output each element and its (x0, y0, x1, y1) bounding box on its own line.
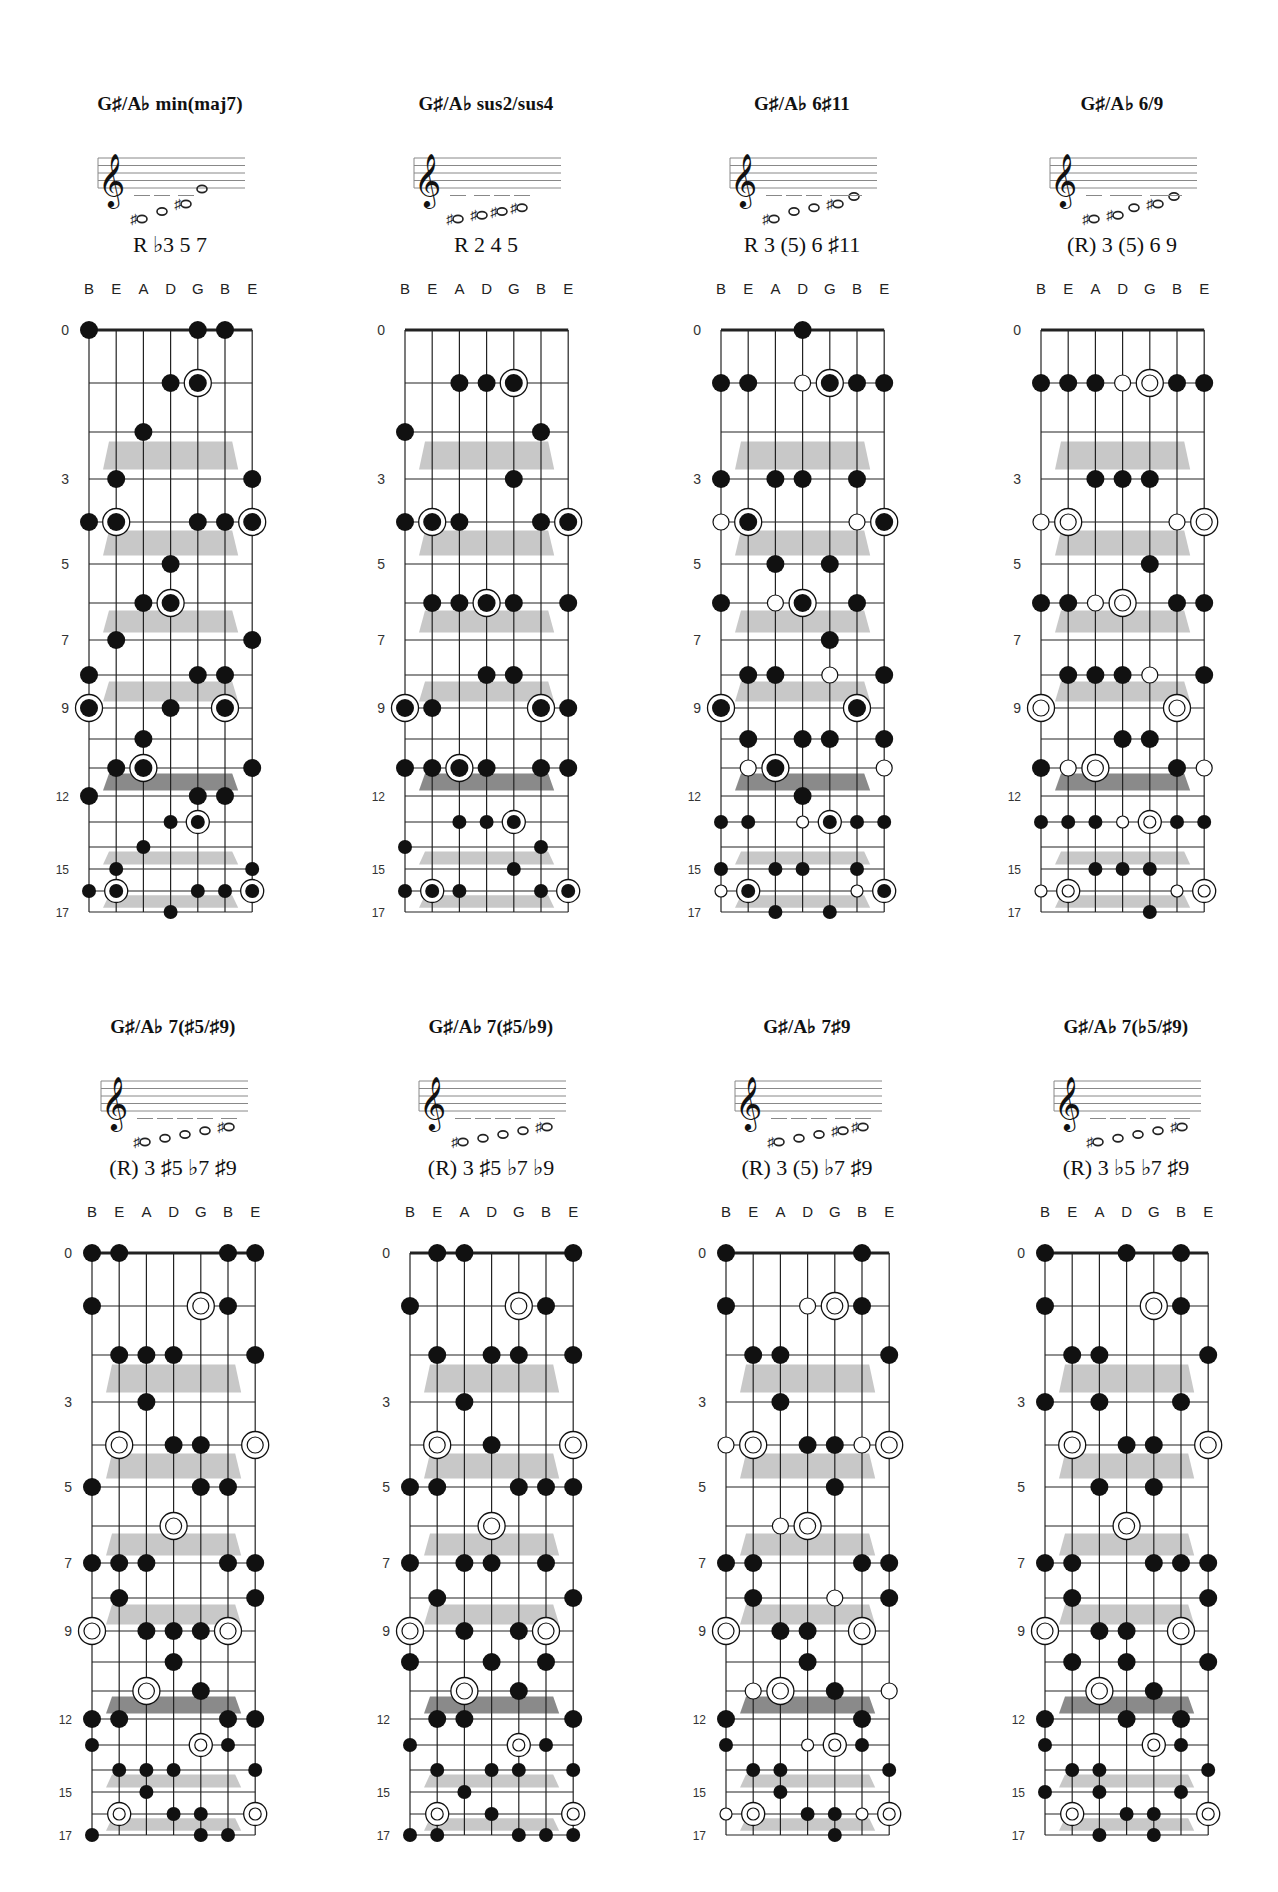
fret-number: 5 (693, 556, 701, 572)
chord-title: G♯/A♭ 6/9 (992, 92, 1252, 115)
note-dot (1063, 1589, 1081, 1607)
whole-note-icon (838, 1127, 848, 1134)
whole-note-icon (200, 1127, 210, 1134)
root-dot (561, 884, 575, 898)
note-dot (83, 1554, 101, 1572)
note-dot (134, 423, 152, 441)
note-dot (1092, 1828, 1106, 1842)
note-dot (1092, 1785, 1106, 1799)
note-dot (1118, 1244, 1136, 1262)
note-dot (219, 1478, 237, 1496)
note-dot (566, 1763, 580, 1777)
note-dot (1086, 666, 1104, 684)
chord-diagram: G♯/A♭ 7(♯5/♯9) 𝄞♯♯ (R) 3 ♯5 ♭7 ♯9 BEADGB… (43, 1013, 343, 1892)
note-dot (246, 1346, 264, 1364)
string-label: E (111, 280, 121, 297)
note-dot (243, 759, 261, 777)
note-dot (1032, 759, 1050, 777)
fret-number: 9 (698, 1623, 706, 1639)
staff-notation: 𝄞♯♯ (90, 122, 290, 232)
note-dot (450, 513, 468, 531)
fret-number: 7 (698, 1555, 706, 1571)
note-dot (1032, 594, 1050, 612)
note-dot (1168, 759, 1186, 777)
note-dot (165, 1653, 183, 1671)
note-dot (430, 1763, 444, 1777)
note-dot (826, 1682, 844, 1700)
string-label: G (508, 280, 520, 297)
note-dot (1059, 666, 1077, 684)
note-dot (107, 631, 125, 649)
string-label: E (250, 1203, 260, 1220)
string-label: D (797, 280, 808, 297)
fret-number: 5 (1013, 556, 1021, 572)
note-dot (110, 1710, 128, 1728)
string-label: D (168, 1203, 179, 1220)
note-dot (401, 1653, 419, 1671)
fret-number: 12 (688, 790, 702, 804)
note-dot (1141, 470, 1159, 488)
string-label: B (721, 1203, 731, 1220)
fret-number: 3 (61, 471, 69, 487)
note-dot (1143, 905, 1157, 919)
fret-number: 12 (1008, 790, 1022, 804)
note-dot (850, 862, 864, 876)
string-label: A (138, 280, 148, 297)
whole-note-icon (517, 204, 527, 211)
note-dot (216, 513, 234, 531)
note-dot (512, 1763, 526, 1777)
note-dot (401, 1478, 419, 1496)
chord-diagram: G♯/A♭ 6♯11 𝄞♯♯ R 3 (5) 6 ♯11 BEADGBE0357… (672, 90, 972, 990)
whole-note-icon (197, 185, 207, 192)
note-dot (848, 470, 866, 488)
note-dot (396, 423, 414, 441)
note-dot (243, 631, 261, 649)
whole-note-icon (137, 215, 147, 222)
string-label: E (1063, 280, 1073, 297)
note-dot (848, 374, 866, 392)
string-label: E (1067, 1203, 1077, 1220)
string-label: G (192, 280, 204, 297)
string-label: A (1090, 280, 1100, 297)
root-dot (794, 594, 812, 612)
note-dot (450, 594, 468, 612)
note-dot (398, 840, 412, 854)
chord-title: G♯/A♭ 6♯11 (672, 92, 932, 115)
root-dot (821, 374, 839, 392)
note-dot (221, 1738, 235, 1752)
note-dot (83, 1478, 101, 1496)
note-dot (821, 730, 839, 748)
string-label: D (802, 1203, 813, 1220)
staff-notation: 𝄞♯♯ (722, 122, 922, 232)
root-dot (532, 699, 550, 717)
note-dot (739, 730, 757, 748)
note-dot (110, 1244, 128, 1262)
string-label: E (743, 280, 753, 297)
fret-number: 17 (372, 906, 386, 920)
note-dot (455, 1393, 473, 1411)
optional-note-circle (1169, 514, 1185, 530)
note-dot (83, 1297, 101, 1315)
string-label: B (405, 1203, 415, 1220)
note-dot (739, 374, 757, 392)
note-dot (1086, 374, 1104, 392)
string-label: B (220, 280, 230, 297)
note-dot (455, 1622, 473, 1640)
note-dot (505, 666, 523, 684)
note-dot (1195, 666, 1213, 684)
treble-clef-icon: 𝄞 (419, 1077, 446, 1132)
treble-clef-icon: 𝄞 (98, 154, 125, 209)
note-dot (539, 1828, 553, 1842)
root-dot (766, 759, 784, 777)
note-dot (83, 1244, 101, 1262)
note-dot (483, 1436, 501, 1454)
chord-title: G♯/A♭ 7(♯5/♭9) (361, 1015, 621, 1038)
note-dot (1088, 862, 1102, 876)
note-dot (821, 631, 839, 649)
fretboard: BEADGBE03579121517 (677, 1203, 937, 1853)
treble-clef-icon: 𝄞 (1050, 154, 1077, 209)
note-dot (483, 1346, 501, 1364)
note-dot (165, 1346, 183, 1364)
note-dot (801, 1807, 815, 1821)
note-dot (1118, 1622, 1136, 1640)
